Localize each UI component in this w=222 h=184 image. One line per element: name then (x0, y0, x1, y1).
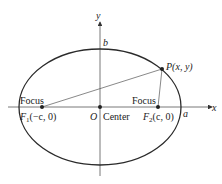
ellipse-diagram: y x b a P(x, y) Focus Focus F1(−c, 0) O … (0, 0, 222, 184)
focus-left-label: Focus (20, 95, 44, 106)
center-label: Center (103, 111, 130, 122)
focus-2-point (156, 105, 160, 109)
point-p-label: P(x, y) (165, 61, 193, 73)
point-p (160, 67, 164, 71)
y-axis-label: y (95, 10, 101, 21)
focal-radius-2 (158, 69, 162, 107)
f2-label: F2(c, 0) (142, 111, 174, 124)
f1-label: F1(−c, 0) (19, 111, 56, 124)
focus-right-label: Focus (132, 95, 156, 106)
x-axis-label: x (211, 102, 217, 113)
origin-point (98, 105, 102, 109)
b-label: b (103, 37, 108, 48)
origin-label: O (90, 111, 97, 122)
a-label: a (183, 108, 188, 119)
